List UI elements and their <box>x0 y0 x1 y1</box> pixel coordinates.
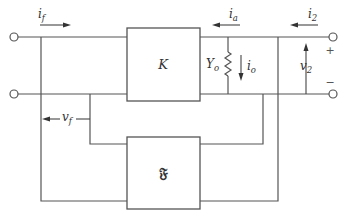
resistor-icon <box>225 37 231 94</box>
admittance-current-label: io <box>247 59 256 75</box>
admittance-label: Yo <box>206 57 219 73</box>
output-minus-sign: − <box>325 76 334 89</box>
input-terminal-bottom <box>10 90 18 98</box>
input-terminal-top <box>10 33 18 41</box>
output-voltage-label: v2 <box>300 59 312 75</box>
amplifier-block-label: K <box>157 57 169 72</box>
feedback-voltage-label: vf <box>62 110 74 126</box>
feedback-block-label: 𝔉 <box>159 165 168 181</box>
io-arrow-down-icon <box>239 55 244 81</box>
feedback-current-label: if <box>38 7 47 23</box>
output-terminal-top <box>329 33 337 41</box>
amplifier-current-label: ia <box>229 7 238 23</box>
output-current-label: i2 <box>308 7 317 23</box>
output-plus-sign: + <box>325 44 334 57</box>
if-arrow-right-icon <box>40 23 71 28</box>
left-inner-feedback-wire <box>90 94 127 144</box>
output-terminal-bottom <box>329 90 337 98</box>
ia-arrow-left-icon <box>212 23 240 28</box>
i2-arrow-left-icon <box>290 23 318 28</box>
feedback-circuit-diagram: K 𝔉 Yo io if ia i2 v2 vf <box>0 0 348 221</box>
right-inner-feedback-wire <box>200 94 263 144</box>
